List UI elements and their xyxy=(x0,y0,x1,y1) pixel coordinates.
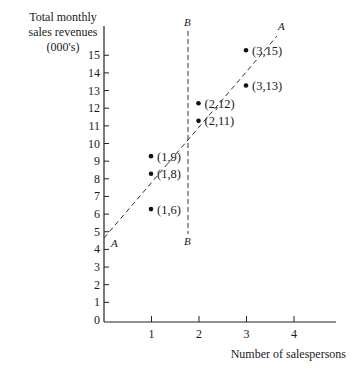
point-label: (1,8) xyxy=(157,167,181,181)
y-tick-label: 8 xyxy=(94,172,100,186)
y-tick-label: 10 xyxy=(88,137,100,151)
line-a-label-top: A xyxy=(277,20,285,32)
point-label: (1,6) xyxy=(157,203,181,217)
y-tick-label: 7 xyxy=(94,189,100,203)
y-tick-label: 1 xyxy=(94,295,100,309)
y-tick-label: 2 xyxy=(94,278,100,292)
svg-text:sales revenues: sales revenues xyxy=(29,25,98,39)
y-tick-label: 9 xyxy=(94,154,100,168)
line-a xyxy=(104,36,277,238)
y-tick-label: 11 xyxy=(88,119,100,133)
x-tick-label: 3 xyxy=(244,327,250,341)
point-label: (3,13) xyxy=(252,79,282,93)
x-axis-title: Number of salespersons xyxy=(231,347,347,361)
data-point: (1,9) xyxy=(149,150,181,164)
scatter-chart: Total monthly sales revenues (000's) 012… xyxy=(0,0,358,372)
point-label: (1,9) xyxy=(157,150,181,164)
data-point: (3,13) xyxy=(244,79,283,93)
y-tick-label: 0 xyxy=(94,313,100,327)
point-marker xyxy=(196,119,201,124)
y-tick-label: 5 xyxy=(94,225,100,239)
point-label: (2,12) xyxy=(205,97,235,111)
y-tick-label: 6 xyxy=(94,207,100,221)
y-tick-label: 4 xyxy=(94,242,100,256)
data-point: (3,15) xyxy=(244,44,283,58)
point-marker xyxy=(149,172,154,177)
svg-text:Total monthly: Total monthly xyxy=(29,10,97,24)
x-tick-label: 4 xyxy=(291,327,297,341)
y-tick-label: 15 xyxy=(88,48,100,62)
point-marker xyxy=(244,48,249,53)
point-marker xyxy=(244,83,249,88)
y-tick-label: 3 xyxy=(94,260,100,274)
x-tick-label: 1 xyxy=(149,327,155,341)
line-b-label-top: B xyxy=(184,16,191,28)
x-tick-label: 2 xyxy=(196,327,202,341)
point-marker xyxy=(149,154,154,159)
point-marker xyxy=(149,207,154,212)
data-points: (1,6)(1,8)(1,9)(2,11)(2,12)(3,13)(3,15) xyxy=(149,44,283,217)
x-axis-ticks: 1234 xyxy=(149,316,298,341)
line-b-label-bottom: B xyxy=(184,235,191,247)
y-tick-label: 12 xyxy=(88,101,100,115)
y-axis-ticks: 0123456789101112131415 xyxy=(88,48,109,327)
data-point: (1,8) xyxy=(149,167,181,181)
y-tick-label: 14 xyxy=(88,66,100,80)
data-point: (2,12) xyxy=(196,97,235,111)
point-label: (2,11) xyxy=(205,114,235,128)
point-label: (3,15) xyxy=(252,44,282,58)
point-marker xyxy=(196,101,201,106)
data-point: (2,11) xyxy=(196,114,234,128)
data-point: (1,6) xyxy=(149,203,181,217)
svg-text:(000's): (000's) xyxy=(47,40,80,54)
line-a-label-bottom: A xyxy=(110,237,118,249)
y-tick-label: 13 xyxy=(88,84,100,98)
